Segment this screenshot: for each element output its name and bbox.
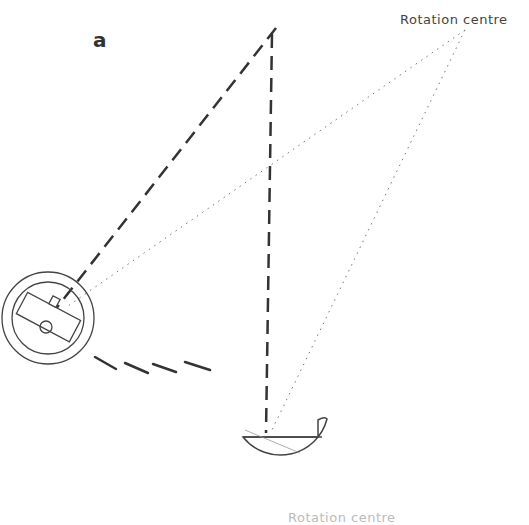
dotted-lines: [65, 30, 465, 430]
rotation-centre-label-bottom: Rotation centre: [288, 510, 396, 525]
dashed-lines: [55, 28, 276, 433]
panel-label: a: [93, 28, 107, 52]
semicircular-device: [243, 418, 327, 455]
motion-strokes: [95, 357, 210, 373]
rotation-centre-label: Rotation centre: [400, 12, 508, 27]
left-circular-device: [2, 272, 94, 364]
